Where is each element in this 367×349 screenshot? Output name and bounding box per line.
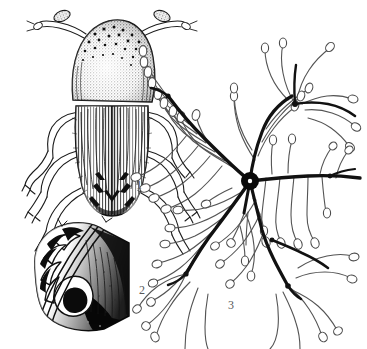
illustration-plate: 1 2 3 (0, 0, 367, 349)
node-lower-left (183, 271, 188, 276)
figure-label-2: 2 (139, 284, 145, 296)
node-lower-right (285, 283, 291, 289)
node-upper-left (165, 93, 170, 98)
node-southeast (270, 238, 275, 243)
node-upper-right (292, 101, 298, 107)
nuptial-chamber (241, 172, 259, 190)
node-right-arm (328, 174, 333, 179)
plate-canvas (0, 0, 367, 349)
figure-label-1: 1 (136, 179, 142, 191)
figure-label-3: 3 (228, 299, 234, 311)
